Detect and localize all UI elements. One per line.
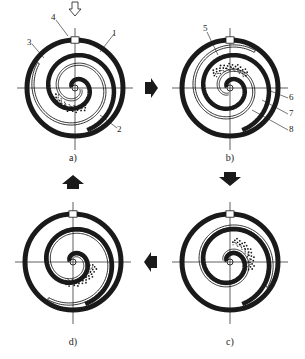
part-label-7: 7 (289, 108, 294, 118)
flow-arrow-right-icon (145, 78, 158, 98)
part-label-6: 6 (289, 92, 294, 102)
orbiting-scroll-end (266, 286, 268, 287)
part-label-8: 8 (289, 124, 294, 134)
port-opening (226, 211, 234, 217)
orbiting-scroll-end (48, 298, 49, 300)
part-label-3: 3 (27, 37, 32, 47)
caption-a: a) (69, 152, 77, 163)
leader-line (56, 20, 68, 36)
stage-c (172, 202, 288, 324)
caption-d: d) (69, 336, 77, 347)
port-opening (69, 211, 77, 217)
port-opening (226, 37, 234, 43)
flow-arrow-up-icon (62, 175, 84, 189)
caption-b: b) (226, 152, 234, 163)
diagram-canvas (0, 0, 305, 359)
inlet-arrow-icon (69, 2, 81, 16)
part-label-4: 4 (51, 12, 56, 22)
compressed-gas-pocket (53, 93, 87, 113)
scroll-compressor-diagram: a) b) c) d) 4 1 3 2 5 6 7 8 (0, 0, 305, 359)
stage-d (15, 202, 131, 324)
caption-c: c) (226, 336, 234, 347)
flow-arrow-left-icon (144, 252, 157, 272)
flow-arrow-down-icon (219, 172, 241, 186)
orbiting-scroll-end (254, 51, 255, 53)
fixed-scroll (46, 229, 112, 304)
stage-a (17, 28, 133, 150)
orbiting-scroll-end (38, 63, 40, 64)
port-opening (71, 37, 79, 43)
part-label-1: 1 (112, 28, 117, 38)
part-label-5: 5 (203, 23, 208, 33)
fixed-scroll (203, 229, 269, 304)
part-label-2: 2 (117, 124, 122, 134)
stage-b (172, 28, 288, 150)
